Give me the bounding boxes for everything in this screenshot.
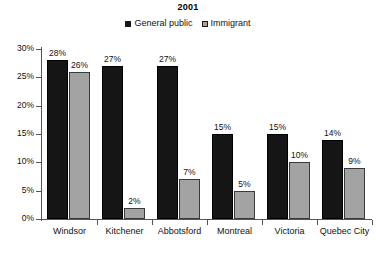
bar-value-label: 15% <box>206 123 239 132</box>
bar-immigrant[interactable] <box>179 179 200 219</box>
bar-value-label: 5% <box>228 180 261 189</box>
x-axis-category-label: Quebec City <box>317 227 372 236</box>
x-axis-category-label: Abbotsford <box>152 227 207 236</box>
chart-title: 2001 <box>0 2 376 12</box>
y-axis-tick <box>36 106 42 107</box>
bar-general-public[interactable] <box>267 134 288 219</box>
x-axis-category-label: Victoria <box>262 227 317 236</box>
bar-general-public[interactable] <box>47 60 68 219</box>
bar-value-label: 7% <box>173 168 206 177</box>
y-axis-tick-label: 5% <box>2 186 34 195</box>
y-axis-tick-label: 30% <box>2 44 34 53</box>
bar-value-label: 10% <box>283 151 316 160</box>
y-axis-tick <box>36 134 42 135</box>
y-axis-tick <box>36 191 42 192</box>
bar-immigrant[interactable] <box>234 191 255 219</box>
bar-group: 27%2% <box>102 49 145 219</box>
legend-label-general-public: General public <box>134 19 192 28</box>
y-axis-tick-label: 15% <box>2 129 34 138</box>
x-axis-tick <box>207 220 208 225</box>
legend-swatch-immigrant <box>202 21 208 27</box>
y-axis-tick <box>36 77 42 78</box>
x-axis-tick <box>317 220 318 225</box>
x-axis-tick <box>372 220 373 225</box>
bar-chart: 2001 General public Immigrant 30%25%20%1… <box>0 0 376 256</box>
x-axis-tick <box>97 220 98 225</box>
x-axis-category-label: Kitchener <box>97 227 152 236</box>
bar-immigrant[interactable] <box>124 208 145 219</box>
y-axis-tick-label: 20% <box>2 101 34 110</box>
bar-value-label: 14% <box>316 129 349 138</box>
y-axis-tick <box>36 162 42 163</box>
bar-group: 15%10% <box>267 49 310 219</box>
x-axis-category-label: Montreal <box>207 227 262 236</box>
legend-item-general-public: General public <box>125 19 192 28</box>
legend-swatch-general-public <box>125 21 131 27</box>
y-axis-tick-label: 25% <box>2 72 34 81</box>
bar-general-public[interactable] <box>157 66 178 219</box>
bar-value-label: 27% <box>151 55 184 64</box>
bar-immigrant[interactable] <box>69 72 90 219</box>
legend-item-immigrant: Immigrant <box>202 19 251 28</box>
bar-value-label: 28% <box>41 49 74 58</box>
bar-group: 15%5% <box>212 49 255 219</box>
bar-immigrant[interactable] <box>344 168 365 219</box>
y-axis-tick-label: 0% <box>2 214 34 223</box>
x-axis-tick <box>262 220 263 225</box>
bar-value-label: 9% <box>338 157 371 166</box>
legend-label-immigrant: Immigrant <box>211 19 251 28</box>
y-axis-tick <box>36 219 42 220</box>
bar-immigrant[interactable] <box>289 162 310 219</box>
bar-group: 14%9% <box>322 49 365 219</box>
bar-value-label: 27% <box>96 55 129 64</box>
bar-general-public[interactable] <box>322 140 343 219</box>
y-axis-tick-label: 10% <box>2 157 34 166</box>
bar-general-public[interactable] <box>212 134 233 219</box>
bar-value-label: 15% <box>261 123 294 132</box>
bar-group: 27%7% <box>157 49 200 219</box>
x-axis-category-label: Windsor <box>42 227 97 236</box>
chart-legend: General public Immigrant <box>0 19 376 28</box>
bar-group: 28%26% <box>47 49 90 219</box>
bar-value-label: 2% <box>118 197 151 206</box>
bar-value-label: 26% <box>63 61 96 70</box>
x-axis-tick <box>152 220 153 225</box>
